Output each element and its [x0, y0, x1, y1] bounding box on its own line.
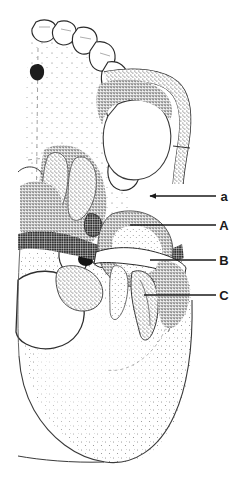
label-B: B	[219, 253, 228, 268]
label-a: a	[220, 189, 228, 204]
anatomical-figure: a A B C	[0, 0, 245, 484]
label-A: A	[219, 218, 229, 233]
skull-base-outline	[16, 20, 192, 463]
skull-base-drawing: a A B C	[0, 0, 245, 484]
infratemporal-fossa	[103, 100, 171, 180]
label-C: C	[219, 288, 229, 303]
